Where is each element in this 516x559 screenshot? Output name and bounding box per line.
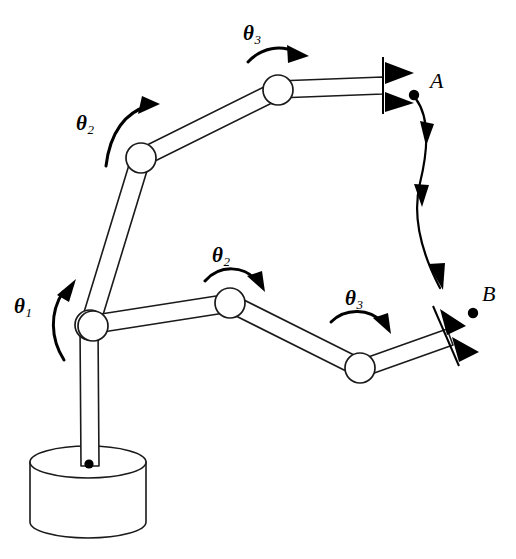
theta2-lower-arrow-arc [205, 269, 256, 281]
upper-config-wrist-joint [263, 75, 293, 105]
upper-config-link1 [81, 155, 150, 328]
upper-config-link2 [137, 82, 282, 166]
upper-config-elbow-joint [126, 143, 156, 173]
gripper-at-a [383, 57, 414, 114]
point-a-dot [409, 90, 419, 100]
lower-config-link2 [226, 295, 364, 376]
trajectory-arrow-head-mid1 [420, 121, 434, 146]
column-base-pivot-dot [84, 459, 93, 468]
theta2-upper-arrow-head [138, 96, 160, 114]
point-label-a: A [430, 70, 443, 92]
theta3-upper-arrow-head [287, 45, 309, 63]
theta2-lower-symbol: θ [212, 243, 223, 267]
angle-label-theta2-upper: θ2 [76, 113, 94, 136]
point-b-dot [468, 308, 478, 318]
trajectory-arrow-head-end [428, 263, 445, 290]
gripper-a-upper-jaw [385, 62, 414, 84]
theta3-upper-subscript: 3 [254, 32, 261, 47]
point-label-b: B [482, 283, 495, 305]
angle-label-theta3-lower: θ3 [345, 288, 363, 311]
lower-config-wrist-joint [345, 353, 375, 383]
theta2-lower-subscript: 2 [223, 254, 230, 269]
angle-label-theta3-upper: θ3 [243, 23, 261, 46]
theta3-lower-rotation-arrow [331, 311, 391, 334]
theta1-subscript: 1 [25, 305, 32, 320]
angle-label-theta1: θ1 [14, 296, 32, 319]
trajectory-a-to-b [414, 99, 445, 290]
base-column-link [80, 326, 99, 469]
lower-config-link1 [88, 294, 231, 334]
lower-config-shoulder-joint [78, 311, 108, 341]
theta1-rotation-arrow [53, 279, 76, 360]
column-body [80, 326, 99, 466]
lower-config-elbow-joint [215, 288, 245, 318]
angle-label-theta2-lower: θ2 [212, 245, 230, 268]
theta2-upper-subscript: 2 [87, 122, 94, 137]
theta3-lower-arrow-arc [331, 311, 382, 322]
robot-arm-figure: θ1 θ2 θ3 θ2 θ3 A B [0, 0, 516, 559]
arm-configuration-lower [78, 288, 479, 383]
theta3-upper-symbol: θ [243, 21, 254, 45]
theta3-lower-subscript: 3 [356, 297, 363, 312]
theta2-upper-symbol: θ [76, 111, 87, 135]
theta3-upper-rotation-arrow [248, 45, 309, 63]
theta1-arrow-arc [53, 292, 64, 360]
theta1-symbol: θ [14, 294, 25, 318]
theta3-lower-symbol: θ [345, 286, 356, 310]
